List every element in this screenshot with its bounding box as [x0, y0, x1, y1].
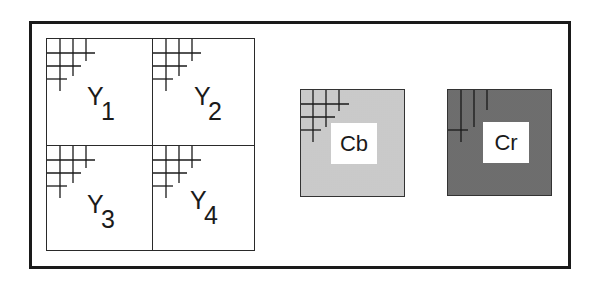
chroma-block-cb: Cb [300, 89, 405, 197]
y3-label: Y3 [87, 192, 104, 217]
y2-label: Y2 [194, 84, 211, 109]
luma-block-y4: Y4 [152, 145, 255, 251]
luma-macroblock: Y1 Y2 [46, 38, 255, 251]
cr-label: Cr [483, 122, 529, 163]
luma-block-y1: Y1 [47, 39, 152, 145]
luma-block-y3: Y3 [47, 145, 152, 251]
cb-label: Cb [331, 123, 377, 164]
chroma-block-cr: Cr [447, 89, 552, 196]
y4-label: Y4 [190, 188, 207, 213]
y1-label: Y1 [87, 84, 104, 109]
luma-block-y2: Y2 [152, 39, 255, 145]
